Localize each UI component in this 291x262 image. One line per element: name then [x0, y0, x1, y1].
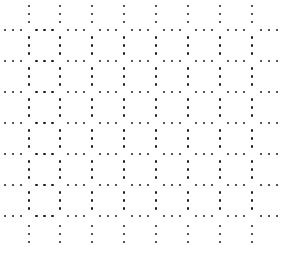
grid-dot: [28, 75, 31, 78]
grid-dot: [20, 122, 23, 125]
grid-dot: [91, 13, 94, 16]
grid-dot: [91, 176, 94, 179]
grid-dot: [260, 122, 263, 125]
grid-dot: [187, 67, 190, 70]
grid-dot: [235, 91, 238, 94]
grid-dot: [171, 29, 174, 32]
grid-dot: [235, 29, 238, 32]
grid-dot: [115, 122, 118, 125]
grid-dot: [187, 75, 190, 78]
grid-dot: [107, 122, 110, 125]
grid-dot: [187, 129, 190, 132]
grid-dot: [28, 83, 31, 86]
grid-dot: [35, 215, 38, 218]
grid-dot: [91, 21, 94, 24]
grid-dot: [268, 60, 271, 63]
grid-dot: [131, 153, 134, 156]
grid-dot: [123, 98, 126, 101]
grid-dot: [131, 122, 134, 125]
grid-dot: [203, 215, 206, 218]
grid-dot: [12, 60, 15, 63]
grid-dot: [107, 60, 110, 63]
grid-dot: [276, 215, 279, 218]
grid-dot: [91, 160, 94, 163]
grid-dot: [227, 91, 230, 94]
grid-dot: [268, 215, 271, 218]
grid-dot: [43, 215, 46, 218]
grid-dot: [91, 98, 94, 101]
grid-dot: [155, 207, 158, 210]
grid-dot: [28, 21, 31, 24]
grid-dot: [20, 184, 23, 187]
grid-dot: [219, 137, 222, 140]
grid-dot: [219, 36, 222, 39]
grid-dot: [75, 122, 78, 125]
grid-dot: [219, 168, 222, 171]
grid-dot: [211, 215, 214, 218]
grid-dot: [123, 44, 126, 47]
grid-dot: [59, 75, 62, 78]
grid-dot: [51, 29, 54, 32]
grid-dot: [20, 29, 23, 32]
grid-dot: [115, 91, 118, 94]
grid-dot: [235, 184, 238, 187]
grid-dot: [91, 75, 94, 78]
grid-dot: [59, 191, 62, 194]
grid-dot: [99, 153, 102, 156]
grid-dot: [187, 44, 190, 47]
grid-dot: [163, 122, 166, 125]
grid-dot: [28, 191, 31, 194]
grid-dot: [219, 52, 222, 55]
grid-dot: [219, 225, 222, 228]
grid-dot: [187, 5, 190, 8]
grid-dot: [227, 215, 230, 218]
grid-dot: [195, 91, 198, 94]
grid-dot: [251, 129, 254, 132]
grid-dot: [123, 176, 126, 179]
grid-dot: [75, 91, 78, 94]
grid-dot: [59, 137, 62, 140]
grid-dot: [91, 191, 94, 194]
grid-dot: [43, 184, 46, 187]
grid-dot: [91, 168, 94, 171]
grid-dot: [187, 98, 190, 101]
grid-dot: [99, 184, 102, 187]
grid-dot: [51, 153, 54, 156]
grid-dot: [28, 36, 31, 39]
grid-dot: [251, 233, 254, 236]
grid-dot: [187, 191, 190, 194]
grid-dot: [163, 29, 166, 32]
grid-dot: [139, 91, 142, 94]
grid-dot: [75, 184, 78, 187]
grid-dot: [4, 122, 7, 125]
grid-dot: [28, 199, 31, 202]
grid-dot: [251, 106, 254, 109]
grid-dot: [171, 153, 174, 156]
grid-dot: [75, 153, 78, 156]
grid-dot: [179, 60, 182, 63]
grid-dot: [203, 91, 206, 94]
grid-dot: [67, 122, 70, 125]
grid-dot: [107, 29, 110, 32]
grid-dot: [59, 13, 62, 16]
grid-dot: [99, 215, 102, 218]
grid-dot: [59, 199, 62, 202]
grid-dot: [155, 233, 158, 236]
grid-dot: [43, 153, 46, 156]
grid-dot: [195, 29, 198, 32]
grid-dot: [219, 199, 222, 202]
grid-dot: [12, 122, 15, 125]
grid-dot: [163, 153, 166, 156]
grid-dot: [28, 225, 31, 228]
grid-dot: [75, 29, 78, 32]
grid-dot: [219, 13, 222, 16]
grid-dot: [179, 153, 182, 156]
grid-dot: [251, 98, 254, 101]
grid-dot: [251, 207, 254, 210]
grid-dot: [35, 153, 38, 156]
grid-dot: [28, 67, 31, 70]
grid-dot: [155, 13, 158, 16]
grid-dot: [51, 215, 54, 218]
grid-dot: [67, 215, 70, 218]
grid-dot: [219, 114, 222, 117]
